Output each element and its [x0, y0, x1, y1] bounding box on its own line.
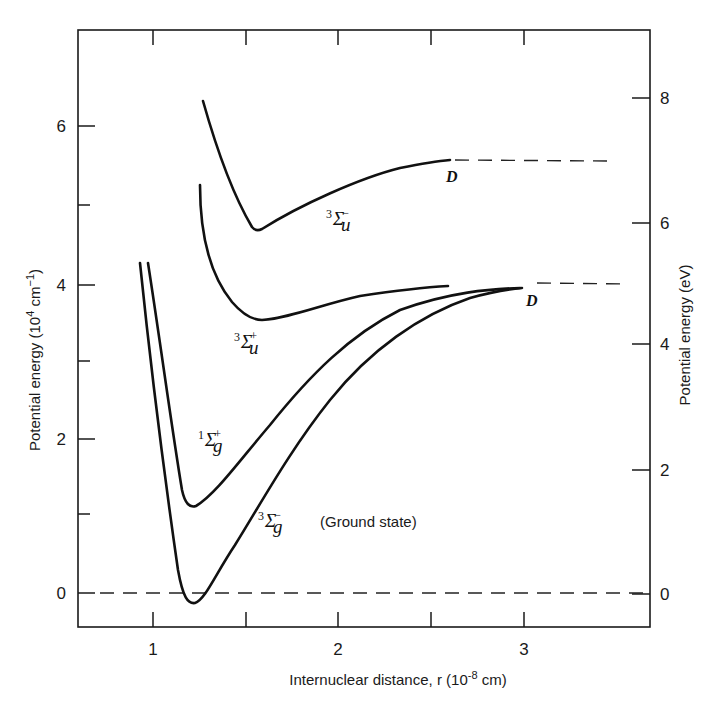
- y-left-axis-title: Potential energy (104 cm−1): [24, 269, 43, 451]
- y-left-ticks: [78, 126, 95, 593]
- y-right-tick-6: 6: [660, 214, 669, 233]
- label-3sigma-g-minus: 3Σ−g: [258, 508, 283, 537]
- y-left-tick-labels: 0 2 4 6: [57, 117, 66, 603]
- y-right-tick-2: 2: [660, 461, 669, 480]
- y-left-tick-6: 6: [57, 117, 66, 136]
- label-3sigma-u-plus: 3Σ+u: [234, 329, 259, 358]
- y-right-axis-title: Potential energy (eV): [676, 265, 693, 406]
- y-right-tick-8: 8: [660, 89, 669, 108]
- y-right-ticks: [632, 98, 650, 594]
- dissociation-label-upper: D: [445, 168, 458, 185]
- ground-state-label: (Ground state): [320, 513, 417, 530]
- lower-dissociation-line: [537, 283, 627, 284]
- plot-frame: [78, 30, 650, 627]
- x-tick-1: 1: [148, 640, 157, 659]
- label-3sigma-u-minus: 3Σ−u: [326, 206, 351, 235]
- x-tick-2: 2: [333, 640, 342, 659]
- y-right-tick-0: 0: [660, 585, 669, 604]
- y-left-tick-0: 0: [57, 584, 66, 603]
- dissociation-label-lower: D: [525, 292, 538, 309]
- x-tick-labels: 1 2 3: [148, 640, 528, 659]
- x-axis-title: Internuclear distance, r (10-8 cm): [289, 669, 506, 688]
- y-left-tick-4: 4: [57, 276, 66, 295]
- x-tick-3: 3: [519, 640, 528, 659]
- label-1sigma-g-plus: 1Σ+g: [198, 427, 223, 456]
- potential-energy-chart: 1 2 3 0 2 4 6 0 2 4 6 8 Internuclear dis…: [0, 0, 720, 709]
- y-right-tick-4: 4: [660, 335, 669, 354]
- curve-3sigma-u-plus: [200, 185, 448, 320]
- y-left-tick-2: 2: [57, 430, 66, 449]
- y-right-tick-labels: 0 2 4 6 8: [660, 89, 669, 604]
- upper-dissociation-line: [455, 160, 610, 161]
